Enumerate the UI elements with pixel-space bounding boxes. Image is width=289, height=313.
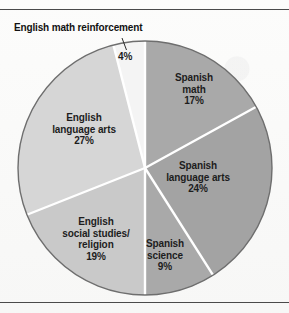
pie-graphic <box>0 10 289 302</box>
slice-value-english-math-reinforcement: 4% <box>118 51 132 62</box>
slice-label-english-math-reinforcement: English math reinforcement <box>14 22 142 33</box>
pie-chart-figure: English math reinforcement 4% Spanish ma… <box>0 0 289 313</box>
figure-bottom-rule <box>0 302 289 303</box>
chart-plot-area: English math reinforcement 4% Spanish ma… <box>0 10 289 302</box>
